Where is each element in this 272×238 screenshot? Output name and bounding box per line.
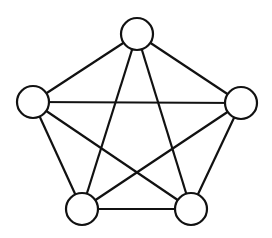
nodes-group bbox=[17, 18, 257, 225]
node-top bbox=[121, 18, 153, 50]
node-bottom-left bbox=[66, 193, 98, 225]
node-right bbox=[225, 87, 257, 119]
node-left bbox=[17, 86, 49, 118]
edge-top-bottom-right bbox=[137, 34, 191, 209]
edge-top-bottom-left bbox=[82, 34, 137, 209]
node-bottom-right bbox=[175, 193, 207, 225]
edge-top-left bbox=[33, 34, 137, 102]
edge-top-right bbox=[137, 34, 241, 103]
edge-left-right bbox=[33, 102, 241, 103]
k5-graph-diagram bbox=[0, 0, 272, 238]
edges-group bbox=[33, 34, 241, 209]
